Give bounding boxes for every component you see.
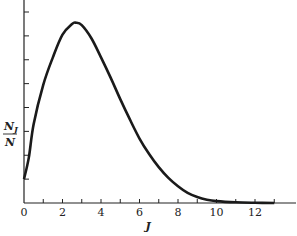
axes: 024681012 <box>21 0 297 219</box>
chart: 024681012 J NJ N <box>0 0 296 236</box>
x-tick-label: 12 <box>248 206 262 219</box>
x-tick-label: 6 <box>136 206 143 219</box>
y-axis-label: NJ N <box>3 120 19 149</box>
y-axis-label-numerator: NJ <box>3 120 19 134</box>
x-tick-label: 4 <box>98 206 105 219</box>
x-tick-label: 0 <box>21 206 28 219</box>
x-tick-label: 10 <box>210 206 224 219</box>
series-line <box>24 23 274 203</box>
x-tick-label: 2 <box>59 206 66 219</box>
x-tick-label: 8 <box>175 206 182 219</box>
y-axis-label-denominator: N <box>4 136 16 149</box>
x-axis-label: J <box>143 220 151 233</box>
distribution-curve <box>24 23 274 203</box>
